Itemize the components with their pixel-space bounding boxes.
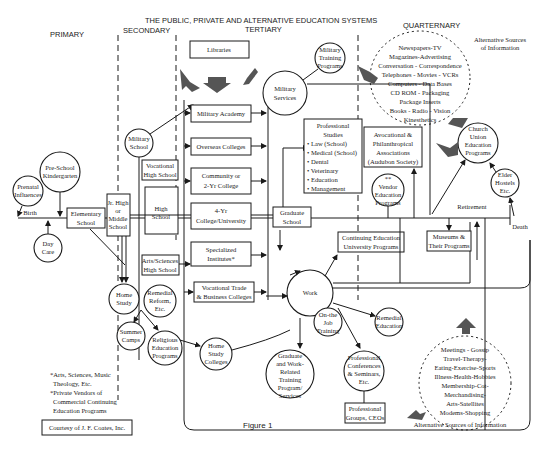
svg-text:Education: Education xyxy=(465,141,492,148)
stage-secondary: SECONDARY xyxy=(123,26,170,35)
svg-text:Magazines-Advertising: Magazines-Advertising xyxy=(389,53,452,60)
svg-text:Services: Services xyxy=(274,94,297,101)
svg-text:Services: Services xyxy=(279,392,302,399)
svg-text:Programs: Programs xyxy=(465,149,491,156)
label-birth: Birth xyxy=(23,209,37,216)
node-vocational-trade: Vocational Trade & Business Colleges xyxy=(194,282,254,302)
svg-text:Training: Training xyxy=(319,54,342,61)
node-military-academy: Military Academy xyxy=(191,105,251,122)
svg-text:Remedial: Remedial xyxy=(147,289,172,296)
alt-sources-bottom: Meetings - Gossip Travel-Therapy- Eating… xyxy=(414,336,511,430)
svg-text:Conversation - Correspondence: Conversation - Correspondence xyxy=(378,62,462,69)
svg-text:and Work-: and Work- xyxy=(276,360,304,367)
svg-text:of Information: of Information xyxy=(481,44,520,51)
svg-text:(Audubon Society): (Audubon Society) xyxy=(368,158,418,166)
svg-text:Military: Military xyxy=(319,46,341,53)
up-arrow-icon xyxy=(456,318,476,328)
svg-text:Their Programs: Their Programs xyxy=(428,242,470,249)
svg-text:Union: Union xyxy=(470,133,487,140)
svg-text:University Programs: University Programs xyxy=(344,243,399,250)
svg-text:Groups, CEOs: Groups, CEOs xyxy=(346,414,385,421)
node-military-training: Military Training Programs xyxy=(315,43,345,73)
svg-text:High: High xyxy=(154,205,168,212)
svg-text:Studies: Studies xyxy=(323,131,343,138)
svg-text:Theology, Etc.: Theology, Etc. xyxy=(53,380,92,387)
diagram-title: THE PUBLIC, PRIVATE AND ALTERNATIVE EDUC… xyxy=(145,16,377,25)
node-overseas-colleges: Overseas Colleges xyxy=(191,138,251,155)
node-community-college: Community or 2-Yr College xyxy=(191,168,251,194)
svg-text:Continuing Education: Continuing Education xyxy=(342,234,401,241)
svg-text:Education: Education xyxy=(375,191,402,198)
svg-text:School: School xyxy=(130,143,148,150)
svg-text:Arts/Sciences: Arts/Sciences xyxy=(142,257,179,264)
node-specialized-institutes: Specialized Institutes* xyxy=(191,242,251,266)
svg-text:Middle: Middle xyxy=(108,215,127,222)
svg-text:& Seminars,: & Seminars, xyxy=(348,370,381,377)
svg-text:Jr. High: Jr. High xyxy=(108,199,130,206)
svg-text:Education Programs: Education Programs xyxy=(53,407,107,414)
svg-text:Overseas Colleges: Overseas Colleges xyxy=(197,143,246,150)
svg-text:Graduate: Graduate xyxy=(278,352,302,359)
svg-text:2-Yr College: 2-Yr College xyxy=(204,182,239,189)
svg-text:Philanthropical: Philanthropical xyxy=(373,140,413,147)
alt-sources-top: Alternative Sources of Information Newsp… xyxy=(370,31,527,125)
svg-text:Kindergarten: Kindergarten xyxy=(43,172,78,179)
svg-text:Etc.: Etc. xyxy=(500,187,511,194)
svg-text:High School: High School xyxy=(143,171,176,178)
svg-text:Etc.: Etc. xyxy=(359,378,370,385)
svg-text:Programs: Programs xyxy=(152,352,178,359)
svg-text:School: School xyxy=(283,218,301,225)
node-high-school: High School xyxy=(145,187,178,234)
node-vocational-high-school: Vocational High School xyxy=(142,160,178,180)
svg-text:Programs: Programs xyxy=(317,62,343,69)
svg-text:Summer: Summer xyxy=(120,328,143,335)
svg-text:Illness-Health-Hobbies: Illness-Health-Hobbies xyxy=(434,373,496,380)
stage-tertiary: TERTIARY xyxy=(245,25,282,34)
svg-text:Telephones - Movies - VCRs: Telephones - Movies - VCRs xyxy=(382,71,459,78)
svg-text:Reform,: Reform, xyxy=(149,297,171,304)
svg-text:Computers - Data Bases: Computers - Data Bases xyxy=(388,80,452,87)
svg-text:Books - Radio - Vision: Books - Radio - Vision xyxy=(390,107,451,114)
node-continuing-education: Continuing Education University Programs xyxy=(338,232,404,252)
shadow-arrow-icon xyxy=(436,142,458,157)
svg-text:• Medical (School): • Medical (School) xyxy=(307,149,357,157)
svg-text:Military: Military xyxy=(128,135,150,142)
svg-text:Colleges: Colleges xyxy=(204,358,228,365)
education-systems-diagram: THE PUBLIC, PRIVATE AND ALTERNATIVE EDUC… xyxy=(0,0,543,453)
node-libraries: Libraries xyxy=(190,41,249,58)
svg-text:Conferences: Conferences xyxy=(348,362,381,369)
node-religious-education: Religious Education Programs xyxy=(148,331,182,365)
svg-text:Study: Study xyxy=(208,350,224,357)
node-arts-sciences-high-school: Arts/Sciences High School xyxy=(142,255,179,275)
svg-text:Work: Work xyxy=(303,289,318,296)
svg-text:Study: Study xyxy=(116,299,132,306)
svg-text:Church: Church xyxy=(468,125,488,132)
svg-text:Job: Job xyxy=(323,319,333,326)
footnotes: *Arts, Sciences, Music Theology, Etc. *P… xyxy=(50,371,118,414)
svg-text:Influences: Influences xyxy=(14,191,42,198)
svg-text:Travel-Therapy-: Travel-Therapy- xyxy=(443,355,486,362)
svg-text:Institutes*: Institutes* xyxy=(207,255,234,262)
shadow-arrow-icon xyxy=(448,118,468,128)
node-prenatal: Prenatal Influences xyxy=(13,176,43,206)
node-home-study: Home Study xyxy=(109,284,139,314)
label-death: Death xyxy=(512,223,528,230)
svg-text:Professional: Professional xyxy=(348,354,381,361)
svg-text:Training: Training xyxy=(317,327,340,334)
svg-text:Hostels: Hostels xyxy=(495,179,515,186)
svg-text:Training: Training xyxy=(279,376,302,383)
svg-text:**: ** xyxy=(385,175,392,182)
node-museums: Museums & Their Programs xyxy=(427,231,471,251)
svg-text:High School: High School xyxy=(143,266,176,273)
svg-text:Museums &: Museums & xyxy=(433,233,466,240)
svg-text:Kinesthetics: Kinesthetics xyxy=(404,116,437,123)
svg-text:Specialized: Specialized xyxy=(206,246,237,253)
svg-text:Avocational &: Avocational & xyxy=(374,131,413,138)
svg-text:Professional: Professional xyxy=(317,122,350,129)
node-4yr-college: 4-Yr College/University xyxy=(191,203,251,229)
svg-text:Religious: Religious xyxy=(152,336,178,343)
svg-text:Alternative Sources of Informa: Alternative Sources of Information xyxy=(414,421,507,428)
courtesy-box: Courtesy of J. F. Coates, Inc. xyxy=(42,420,132,435)
svg-text:Home: Home xyxy=(116,291,132,298)
stage-quarternary: QUARTERNARY xyxy=(403,21,460,30)
